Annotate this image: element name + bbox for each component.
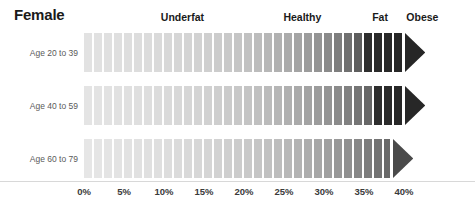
bar-segment — [134, 139, 142, 178]
bar-segment — [274, 33, 282, 72]
bar-segment — [204, 33, 212, 72]
bar-segment — [264, 86, 272, 125]
x-tick-label: 5% — [117, 186, 131, 197]
x-tick-label: 10% — [154, 186, 173, 197]
bar-arrow-head — [405, 86, 425, 125]
category-label-healthy: Healthy — [283, 11, 321, 23]
category-label-fat: Fat — [372, 11, 388, 23]
body-fat-chart: Female UnderfatHealthyFatObese Age 20 to… — [0, 0, 475, 215]
bar-segment — [234, 139, 242, 178]
x-tick-label: 25% — [274, 186, 293, 197]
bar-segment — [164, 86, 172, 125]
bar-segment — [304, 33, 312, 72]
bar-segment — [104, 33, 112, 72]
bar-segment — [304, 86, 312, 125]
bar-segment — [224, 33, 232, 72]
bar-segment — [384, 86, 392, 125]
bar-segment — [334, 86, 342, 125]
bar-segment — [164, 139, 172, 178]
bar-segment — [374, 86, 382, 125]
bar-segment — [384, 139, 390, 178]
bar-segment — [284, 33, 292, 72]
bar-segment — [254, 33, 262, 72]
bar-segment — [364, 139, 372, 178]
bar-segment — [164, 33, 172, 72]
x-tick-label: 15% — [194, 186, 213, 197]
bar-segment — [144, 33, 152, 72]
bar-segment — [234, 33, 242, 72]
bar-segment — [384, 33, 392, 72]
bar-segment — [244, 33, 252, 72]
bar-segment — [344, 139, 352, 178]
bar-segment — [154, 33, 162, 72]
bar-segment — [94, 86, 102, 125]
bar-segment — [364, 86, 372, 125]
bar-segment — [274, 86, 282, 125]
bar-segment — [84, 139, 92, 178]
x-tick-label: 20% — [234, 186, 253, 197]
bar-segment — [214, 86, 222, 125]
bar-segment — [154, 139, 162, 178]
bar-segment — [354, 139, 362, 178]
bar-segment — [334, 139, 342, 178]
bar-segment — [104, 86, 112, 125]
bar-segment — [374, 33, 382, 72]
bar-row — [0, 33, 475, 72]
bar-segment — [134, 86, 142, 125]
bar-segment — [294, 33, 302, 72]
category-label-underfat: Underfat — [161, 11, 204, 23]
bar-segment — [344, 33, 352, 72]
bar-segment — [194, 33, 202, 72]
bar-segment — [364, 33, 372, 72]
x-tick-label: 0% — [77, 186, 91, 197]
bar-segment — [394, 86, 402, 125]
bar-segment — [214, 139, 222, 178]
bar-segment — [84, 33, 92, 72]
bar-segment — [284, 139, 292, 178]
bar-segment — [264, 33, 272, 72]
bar-segment — [264, 139, 272, 178]
bar-segment — [154, 86, 162, 125]
bar-segment — [294, 139, 302, 178]
bar-segment — [354, 86, 362, 125]
x-tick-label: 30% — [314, 186, 333, 197]
axis-baseline — [0, 181, 475, 182]
bar-arrow-head — [393, 139, 413, 178]
bar-segment — [214, 33, 222, 72]
bar-segment — [194, 139, 202, 178]
bar-segment — [294, 86, 302, 125]
bar-segment — [284, 86, 292, 125]
bar-segment — [114, 33, 122, 72]
bar-segment — [184, 33, 192, 72]
bar-row — [0, 139, 475, 178]
bar-segment — [314, 86, 322, 125]
bar-segment — [144, 86, 152, 125]
bar-segment — [124, 33, 132, 72]
bar-segment — [124, 139, 132, 178]
bar-segment — [334, 33, 342, 72]
bar-segment — [174, 139, 182, 178]
bar-segment — [204, 139, 212, 178]
bar-segment — [184, 86, 192, 125]
bar-segment — [224, 86, 232, 125]
bar-segment — [314, 33, 322, 72]
bar-segment — [394, 33, 402, 72]
bar-segment — [234, 86, 242, 125]
bar-segment — [194, 86, 202, 125]
bar-segment — [324, 139, 332, 178]
bar-segment — [124, 86, 132, 125]
bar-segment — [174, 33, 182, 72]
bar-segment — [274, 139, 282, 178]
bar-segment — [324, 33, 332, 72]
page-title: Female — [14, 6, 65, 23]
bar-segment — [114, 86, 122, 125]
bar-segment — [314, 139, 322, 178]
bar-segment — [114, 139, 122, 178]
bar-segment — [324, 86, 332, 125]
bar-segment — [254, 86, 262, 125]
bar-segment — [224, 139, 232, 178]
category-label-obese: Obese — [406, 11, 438, 23]
bar-segment — [84, 86, 92, 125]
bar-segment — [94, 33, 102, 72]
bar-segment — [244, 86, 252, 125]
